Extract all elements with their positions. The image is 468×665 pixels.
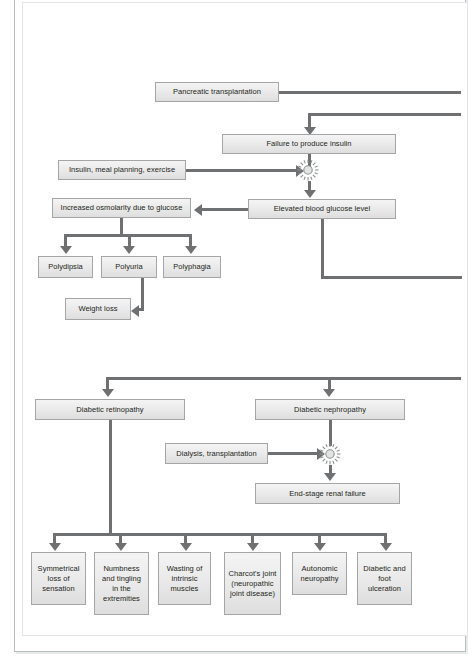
node-label: Diabetic retinopathy xyxy=(39,405,181,415)
node-label: Polyphagia xyxy=(167,262,217,272)
node-symmetrical-loss-of-sensation[interactable]: Symmetrical loss of sensation xyxy=(31,552,86,605)
node-polydipsia[interactable]: Polydipsia xyxy=(38,256,93,278)
connector-complications-bus xyxy=(106,377,461,380)
arrow-into-diabetic-nephropathy xyxy=(323,389,335,397)
node-diabetic-nephropathy[interactable]: Diabetic nephropathy xyxy=(255,399,405,420)
arrow-into-charcots-joint xyxy=(247,543,259,551)
node-end-stage-renal-failure[interactable]: End-stage renal failure xyxy=(255,483,400,504)
node-label: Weight loss xyxy=(69,304,127,314)
arrow-into-polydipsia xyxy=(60,246,72,254)
arrow-into-symmetrical-loss xyxy=(49,543,61,551)
node-label: Insulin, meal planning, exercise xyxy=(62,165,182,175)
connector-dialysis-to-block xyxy=(268,452,320,455)
node-failure-to-produce-insulin[interactable]: Failure to produce insulin xyxy=(222,134,396,154)
node-label: Increased osmolarity due to glucose xyxy=(56,203,187,213)
connector-elevated-right-offpage xyxy=(321,276,462,279)
node-label: Diabetic nephropathy xyxy=(259,405,401,415)
node-label: Wasting of intrinsic muscles xyxy=(162,564,207,594)
arrow-into-numbness xyxy=(115,543,127,551)
node-label: Polydipsia xyxy=(42,262,89,272)
connector-neuropathy-bus xyxy=(53,533,387,536)
node-label: Symmetrical loss of sensation xyxy=(35,564,82,594)
connector-polyuria-down xyxy=(141,278,144,311)
node-elevated-blood-glucose-level[interactable]: Elevated blood glucose level xyxy=(248,199,396,219)
node-label: Dialysis, transplantation xyxy=(169,449,264,459)
node-label: End-stage renal failure xyxy=(259,489,396,499)
node-weight-loss[interactable]: Weight loss xyxy=(65,298,131,320)
node-polyphagia[interactable]: Polyphagia xyxy=(163,256,221,278)
node-label: Failure to produce insulin xyxy=(226,139,392,149)
node-label: Diabetic and foot ulceration xyxy=(361,564,408,594)
starburst-block-icon-1 xyxy=(297,159,319,181)
arrow-into-elevated-blood-glucose xyxy=(304,190,316,198)
node-numbness-and-tingling[interactable]: Numbness and tingling in the extremities xyxy=(94,552,149,615)
connector-polyuria-elbow xyxy=(139,308,144,311)
arrow-into-weight-loss xyxy=(131,305,139,317)
arrow-into-diabetic-retinopathy xyxy=(102,389,114,397)
node-polyuria[interactable]: Polyuria xyxy=(101,256,157,278)
node-dialysis-transplantation[interactable]: Dialysis, transplantation xyxy=(165,443,268,464)
node-label: Elevated blood glucose level xyxy=(252,204,392,214)
node-label: Autonomic neuropathy xyxy=(296,564,343,584)
node-wasting-of-intrinsic-muscles[interactable]: Wasting of intrinsic muscles xyxy=(158,552,211,605)
connector-elevated-down xyxy=(321,219,324,278)
arrow-into-polyuria xyxy=(123,246,135,254)
node-diabetic-foot-ulceration[interactable]: Diabetic and foot ulceration xyxy=(357,552,412,605)
connector-retinopathy-down xyxy=(109,420,112,534)
node-label: Pancreatic transplantation xyxy=(159,87,275,97)
connector-elevated-to-osmolarity xyxy=(202,208,248,211)
node-label: Numbness and tingling in the extremities xyxy=(98,564,145,604)
arrow-into-increased-osmolarity xyxy=(194,204,202,216)
node-autonomic-neuropathy[interactable]: Autonomic neuropathy xyxy=(292,552,347,595)
arrow-into-diabetic-foot-ulceration xyxy=(380,543,392,551)
arrow-into-polyphagia xyxy=(185,246,197,254)
node-increased-osmolarity[interactable]: Increased osmolarity due to glucose xyxy=(52,198,191,218)
node-charcots-joint[interactable]: Charcot's joint (neuropathic joint disea… xyxy=(224,552,281,615)
connector-insulin-to-block xyxy=(186,169,298,172)
node-label: Charcot's joint (neuropathic joint disea… xyxy=(228,569,277,599)
node-label: Polyuria xyxy=(105,262,153,272)
arrow-into-end-stage-renal-failure xyxy=(324,473,336,481)
connector-pancreatic-to-right xyxy=(279,91,461,94)
arrow-into-wasting xyxy=(180,543,192,551)
node-pancreatic-transplantation[interactable]: Pancreatic transplantation xyxy=(155,82,279,102)
arrow-into-autonomic-neuropathy xyxy=(314,543,326,551)
starburst-block-icon-2 xyxy=(319,443,341,465)
connector-right-to-failure-horizontal xyxy=(308,113,461,116)
node-insulin-meal-planning-exercise[interactable]: Insulin, meal planning, exercise xyxy=(58,160,186,180)
node-diabetic-retinopathy[interactable]: Diabetic retinopathy xyxy=(35,399,185,420)
